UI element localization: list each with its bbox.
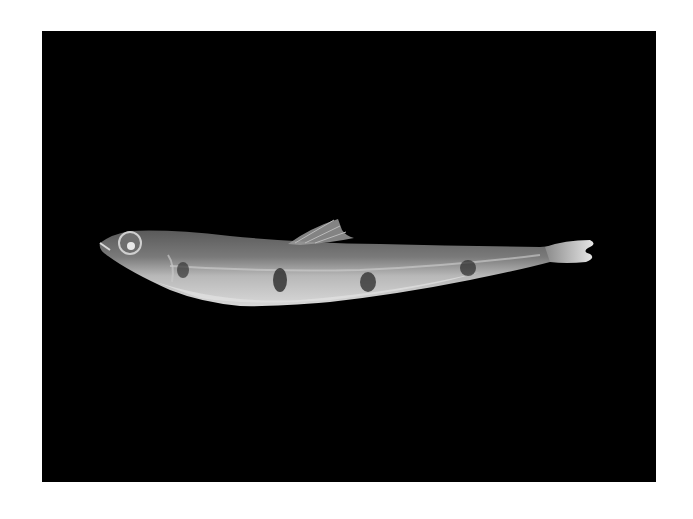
fish-specimen xyxy=(0,0,693,519)
fish-tail xyxy=(545,240,594,263)
